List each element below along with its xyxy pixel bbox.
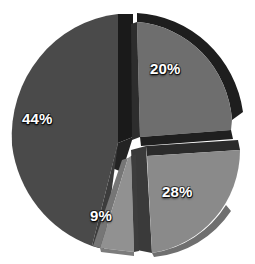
pie-slice-28-face [147, 150, 240, 253]
pie-slice-20-face [137, 22, 232, 137]
pie-chart: 44% 20% 28% 9% [0, 0, 255, 264]
pie-chart-canvas [0, 0, 255, 264]
pie-slice-44-side [118, 14, 133, 143]
pie-slice-20[interactable] [131, 13, 243, 146]
pie-slice-28[interactable] [131, 140, 240, 257]
